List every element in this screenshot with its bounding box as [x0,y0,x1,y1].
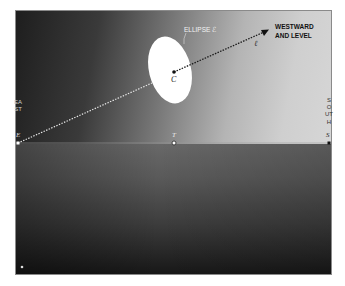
t-point-label: T [172,132,176,139]
point-e-marker [17,142,20,145]
east-point-label: E [16,132,20,139]
ellipse-leader-line [184,33,186,44]
point-s-marker [328,142,331,145]
east-vertical-label: EAST [14,99,22,113]
direction-line-label: ℓ [254,40,257,48]
south-point-label: S [326,132,330,139]
south-vertical-label: SOUTH [325,97,333,126]
ellipse-shape [141,32,198,108]
ellipse-label: ELLIPSE ℰ [184,27,216,34]
star-dot [21,266,24,269]
westward-label-line2: AND LEVEL [275,33,312,40]
diagram-overlay [0,0,345,286]
line-e-to-c [18,83,152,143]
point-t-marker [172,141,176,145]
westward-label-line1: WESTWARD [275,24,314,31]
center-point-c [172,70,176,74]
line-c-to-west [174,32,264,72]
center-label: C [171,76,176,84]
